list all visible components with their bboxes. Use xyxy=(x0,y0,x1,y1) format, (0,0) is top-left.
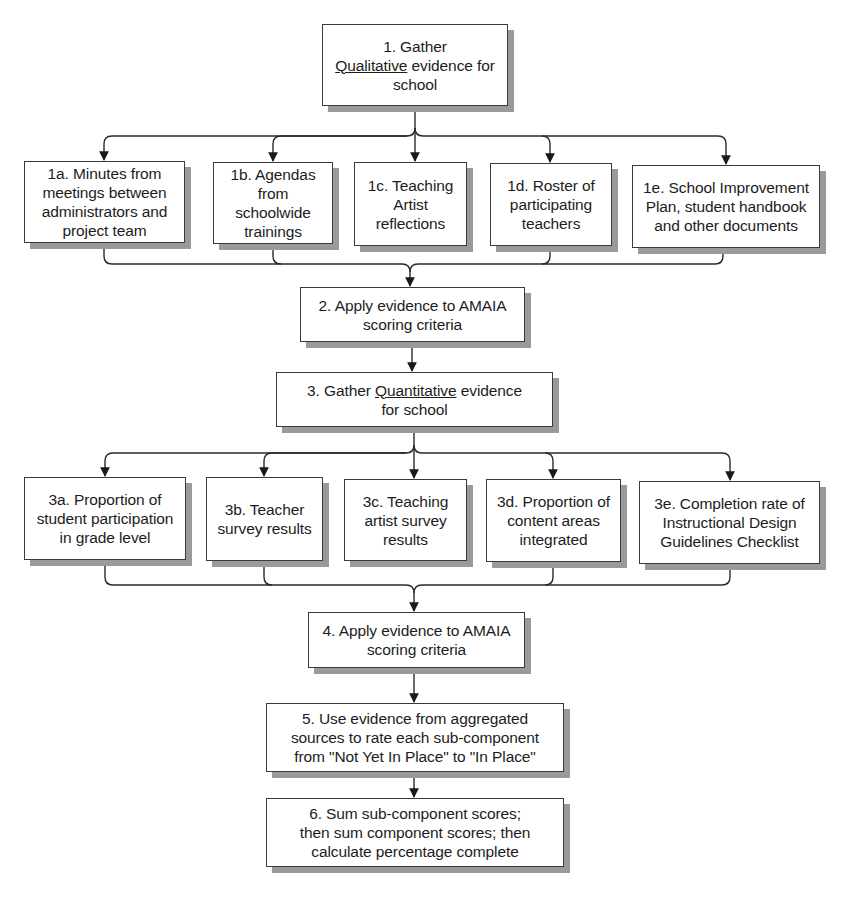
source-1b-label: 1b. Agendas from schoolwide trainings xyxy=(218,165,328,241)
step-1-gather-qualitative-evidence: 1. Gather Qualitative evidence for schoo… xyxy=(322,24,508,106)
step-1-text: 1. Gather Qualitative evidence for schoo… xyxy=(327,37,503,94)
source-1d-roster: 1d. Roster of participating teachers xyxy=(490,163,612,246)
source-1a-label: 1a. Minutes from meetings between admini… xyxy=(29,164,180,240)
step-2-label: 2. Apply evidence to AMAIA scoring crite… xyxy=(305,296,520,334)
source-3a-label: 3a. Proportion of student participation … xyxy=(29,490,181,547)
step-6-sum-scores: 6. Sum sub-component scores; then sum co… xyxy=(266,798,564,867)
step-1-suffix: evidence for school xyxy=(393,57,495,93)
source-1c-teaching-artist-reflections: 1c. Teaching Artist reflections xyxy=(354,162,467,246)
step-3-prefix: 3. Gather xyxy=(307,382,375,399)
source-1b-agendas: 1b. Agendas from schoolwide trainings xyxy=(213,162,333,244)
source-1e-label: 1e. School Improvement Plan, student han… xyxy=(637,178,815,235)
step-3-text: 3. Gather Quantitative evidence for scho… xyxy=(303,381,526,419)
source-3c-teaching-artist-survey: 3c. Teaching artist survey results xyxy=(344,479,467,561)
source-3c-label: 3c. Teaching artist survey results xyxy=(349,492,462,549)
step-5-rate-sub-components: 5. Use evidence from aggregated sources … xyxy=(266,703,564,772)
step-6-label: 6. Sum sub-component scores; then sum co… xyxy=(297,804,533,861)
step-4-label: 4. Apply evidence to AMAIA scoring crite… xyxy=(313,621,520,659)
step-1-prefix: 1. Gather xyxy=(383,38,447,55)
source-1a-minutes: 1a. Minutes from meetings between admini… xyxy=(24,161,185,243)
source-3d-content-areas: 3d. Proportion of content areas integrat… xyxy=(486,479,621,562)
step-2-apply-evidence: 2. Apply evidence to AMAIA scoring crite… xyxy=(300,287,525,342)
source-3e-label: 3e. Completion rate of Instructional Des… xyxy=(644,494,815,551)
source-3e-checklist-completion: 3e. Completion rate of Instructional Des… xyxy=(639,481,820,564)
source-1c-label: 1c. Teaching Artist reflections xyxy=(359,176,462,233)
source-1d-label: 1d. Roster of participating teachers xyxy=(495,176,607,233)
source-3a-student-participation: 3a. Proportion of student participation … xyxy=(24,477,186,560)
source-3d-label: 3d. Proportion of content areas integrat… xyxy=(491,492,616,549)
step-1-underlined-word: Qualitative xyxy=(335,57,407,74)
step-5-label: 5. Use evidence from aggregated sources … xyxy=(275,709,555,766)
step-4-apply-evidence: 4. Apply evidence to AMAIA scoring crite… xyxy=(308,612,525,668)
step-3-underlined-word: Quantitative xyxy=(375,382,457,399)
source-3b-label: 3b. Teacher survey results xyxy=(211,500,318,538)
source-1e-school-documents: 1e. School Improvement Plan, student han… xyxy=(632,165,820,248)
step-3-gather-quantitative-evidence: 3. Gather Quantitative evidence for scho… xyxy=(276,372,553,427)
source-3b-teacher-survey: 3b. Teacher survey results xyxy=(206,477,323,561)
